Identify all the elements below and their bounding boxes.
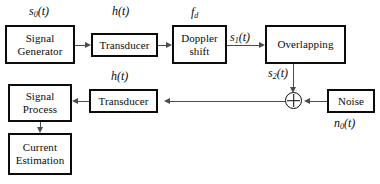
connector-transducer-tx-to-doppler (158, 45, 166, 46)
signal-label-n0: n0(t) (334, 117, 355, 133)
arrowhead-signal-process-to-current-estimation (37, 127, 43, 133)
block-overlapping[interactable]: Overlapping (265, 25, 346, 64)
arrowhead-noise-to-sum (304, 98, 310, 104)
block-signal-process-label: Signal Process (23, 90, 57, 116)
summing-junction[interactable] (285, 92, 302, 109)
block-signal-process[interactable]: Signal Process (8, 84, 72, 122)
signal-label-s0-arg: (t) (38, 4, 49, 18)
arrowhead-sum-to-transducer-rx (164, 98, 170, 104)
signal-label-fd-sub: d (194, 11, 198, 20)
connector-sum-to-transducer-rx (170, 101, 285, 102)
connector-transducer-rx-to-signal-process (78, 101, 89, 102)
block-transducer-rx-label: Transducer (98, 95, 148, 108)
arrowhead-doppler-to-overlapping (259, 42, 265, 48)
arrowhead-transducer-rx-to-signal-process (72, 98, 78, 104)
block-current-estimation-label: Current Estimation (16, 141, 65, 167)
block-signal-generator[interactable]: Signal Generator (5, 25, 75, 64)
signal-label-fd: fd (191, 6, 198, 22)
arrowhead-overlapping-to-sum (290, 87, 296, 93)
signal-label-s0: s0(t) (29, 5, 49, 21)
block-transducer-tx[interactable]: Transducer (91, 33, 158, 57)
signal-label-h-rx: h(t) (111, 70, 128, 82)
block-transducer-tx-label: Transducer (99, 39, 149, 52)
connector-overlapping-to-sum (293, 64, 294, 88)
block-transducer-rx[interactable]: Transducer (89, 89, 158, 113)
signal-label-n0-arg: (t) (344, 116, 355, 130)
block-noise[interactable]: Noise (327, 89, 375, 113)
block-current-estimation[interactable]: Current Estimation (8, 133, 72, 175)
block-diagram-canvas: Signal Generator Transducer Doppler shif… (0, 0, 380, 184)
block-doppler-shift-label: Doppler shift (181, 32, 218, 58)
signal-label-h-rx-arg: (t) (117, 69, 128, 83)
block-overlapping-label: Overlapping (277, 38, 333, 51)
connector-noise-to-sum (310, 101, 327, 102)
signal-label-h-tx-arg: (t) (118, 4, 129, 18)
arrowhead-transducer-tx-to-doppler (166, 42, 172, 48)
arrowhead-siggen-to-transducer-tx (85, 42, 91, 48)
block-signal-generator-label: Signal Generator (18, 32, 63, 58)
signal-label-s2-arg: (t) (277, 66, 288, 80)
connector-doppler-to-overlapping (227, 45, 259, 46)
signal-label-s2: s2(t) (268, 67, 288, 83)
signal-label-s1-arg: (t) (239, 30, 250, 44)
block-noise-label: Noise (338, 95, 364, 108)
signal-label-h-tx: h(t) (112, 5, 129, 17)
connector-siggen-to-transducer-tx (75, 45, 85, 46)
block-doppler-shift[interactable]: Doppler shift (172, 25, 227, 64)
